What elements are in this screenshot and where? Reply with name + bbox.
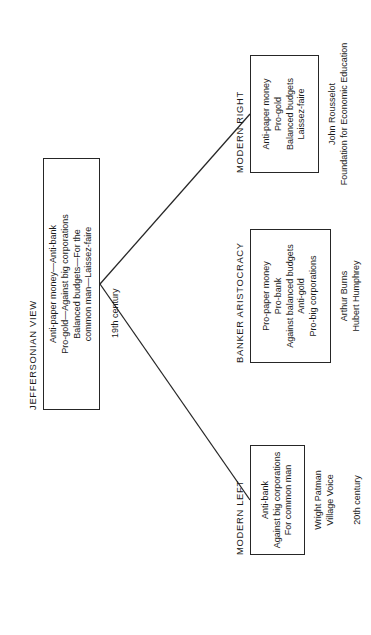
root-era-label: 19th century xyxy=(110,288,120,338)
modern-left-attribution-line-1: Wright Patman xyxy=(313,445,325,555)
root-node-line-3: Balanced budgets—For the xyxy=(72,229,84,339)
modern-left-line-3: For common man xyxy=(283,465,295,536)
banker-aristocracy-node-title: BANKER ARISTOCRACY xyxy=(234,242,245,363)
banker-aristocracy-line-5: Pro-big corporations xyxy=(308,255,320,336)
modern-left-node-title: MODERN LEFT xyxy=(234,480,245,555)
root-node-line-4: common man—Laissez-faire xyxy=(83,227,95,342)
modern-right-line-2: Pro-gold xyxy=(273,97,285,131)
diagram-rotator: JEFFERSONIAN VIEW Anti-paper money—Anti-… xyxy=(0,0,371,635)
banker-aristocracy-line-4: Anti-gold xyxy=(296,278,308,314)
modern-left-era-label: 20th century xyxy=(352,445,362,555)
banker-aristocracy-attribution-line-2: Hubert Humphrey xyxy=(351,229,363,363)
banker-aristocracy-node: Pro-paper money Pro-bank Against balance… xyxy=(250,229,331,363)
modern-right-attribution-line-2: Foundation for Economic Education xyxy=(339,23,351,205)
connector-root-to-modern-right xyxy=(100,114,250,284)
banker-aristocracy-line-2: Pro-bank xyxy=(273,278,285,315)
connector-root-to-modern-left xyxy=(100,284,250,500)
modern-left-attribution: Wright Patman Village Voice xyxy=(313,445,337,555)
modern-right-attribution: John Rousselot Foundation for Economic E… xyxy=(327,23,351,205)
banker-aristocracy-attribution-line-1: Arthur Burns xyxy=(339,229,351,363)
diagram-canvas: JEFFERSONIAN VIEW Anti-paper money—Anti-… xyxy=(0,0,371,635)
modern-right-node: Anti-paper money Pro-gold Balanced budge… xyxy=(250,55,319,173)
root-node: Anti-paper money—Anti-bank Pro-gold—Agai… xyxy=(43,158,100,410)
banker-aristocracy-line-3: Against balanced budgets xyxy=(285,244,297,348)
modern-left-node: Anti-bank Against big corporations For c… xyxy=(250,445,305,555)
modern-right-line-1: Anti-paper money xyxy=(261,78,273,149)
modern-right-attribution-line-1: John Rousselot xyxy=(327,23,339,205)
root-node-title: JEFFERSONIAN VIEW xyxy=(27,300,38,410)
modern-left-line-2: Against big corporations xyxy=(272,452,284,549)
modern-right-line-4: Laissez-faire xyxy=(296,88,308,139)
root-node-line-1: Anti-paper money—Anti-bank xyxy=(48,225,60,343)
modern-left-line-1: Anti-bank xyxy=(260,481,272,519)
modern-right-line-3: Balanced budgets xyxy=(285,78,297,150)
root-node-line-2: Pro-gold—Against big corporations xyxy=(60,214,72,354)
banker-aristocracy-attribution: Arthur Burns Hubert Humphrey xyxy=(339,229,363,363)
banker-aristocracy-line-1: Pro-paper money xyxy=(261,261,273,331)
modern-left-attribution-line-2: Village Voice xyxy=(325,445,337,555)
modern-right-node-title: MODERN RIGHT xyxy=(234,91,245,173)
